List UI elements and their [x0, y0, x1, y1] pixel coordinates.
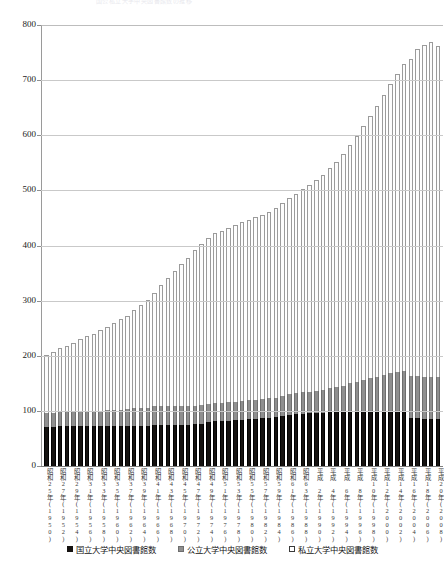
bar-segment-private — [375, 106, 379, 377]
bar-segment-private — [233, 225, 237, 401]
bar-segment-public — [119, 410, 123, 427]
bar-segment-national — [173, 425, 177, 466]
bar-segment-national — [429, 419, 433, 466]
bar-segment-national — [152, 425, 156, 466]
gridline — [41, 190, 443, 191]
bar-stack — [375, 106, 379, 466]
bar-segment-private — [85, 336, 89, 411]
x-axis-tick-label: 平成 8年(1996) — [354, 468, 363, 542]
legend-label-public: 公立大学中央図書館数 — [187, 543, 267, 555]
bar-segment-private — [247, 220, 251, 401]
bar-segment-private — [415, 49, 419, 375]
bar-segment-private — [348, 145, 352, 383]
bar-segment-private — [213, 233, 217, 403]
bar-segment-national — [328, 412, 332, 466]
bar-segment-private — [226, 228, 230, 402]
bar-segment-public — [341, 386, 345, 412]
bar-segment-national — [321, 413, 325, 466]
x-axis-tick-label: 平成20年(2008) — [435, 468, 444, 542]
bar-stack — [71, 343, 75, 466]
bar-segment-national — [240, 420, 244, 466]
x-axis-tick-label: 昭和31年(1956) — [84, 468, 93, 542]
bar-segment-public — [280, 396, 284, 416]
bar-segment-public — [328, 388, 332, 412]
bar-segment-private — [240, 222, 244, 401]
bar-segment-national — [247, 419, 251, 466]
bar-stack — [226, 228, 230, 466]
x-axis-tick-label: 昭和49年(1974) — [205, 468, 214, 542]
y-axis-labels: 0100200300400500600700800 — [0, 0, 36, 561]
bar-segment-national — [314, 413, 318, 466]
bar-segment-national — [159, 425, 163, 466]
bar-segment-public — [186, 406, 190, 424]
bar-segment-private — [98, 330, 102, 410]
bar-stack — [253, 217, 257, 466]
y-axis-tick-label: 400 — [6, 241, 36, 250]
bar-segment-national — [58, 426, 62, 466]
bar-segment-private — [71, 343, 75, 411]
bar-segment-private — [193, 250, 197, 405]
bar-segment-private — [125, 316, 129, 410]
bar-segment-public — [388, 373, 392, 412]
bar-segment-private — [119, 319, 123, 409]
bar-stack — [139, 305, 143, 466]
bar-segment-public — [368, 378, 372, 411]
bar-stack — [78, 339, 82, 466]
bar-segment-public — [71, 411, 75, 426]
bar-stack — [247, 220, 251, 466]
bar-segment-public — [179, 406, 183, 424]
bar-segment-national — [119, 426, 123, 466]
gridline — [41, 246, 443, 247]
x-axis-tick-label: 昭和33年(1958) — [97, 468, 106, 542]
bar-segment-national — [287, 415, 291, 466]
bar-segment-private — [409, 59, 413, 377]
bar-segment-private — [199, 244, 203, 405]
legend-item-private: 私立大学中央図書館数 — [289, 543, 378, 555]
bar-stack — [341, 154, 345, 466]
x-axis-tick-label: 平成 2年(1990) — [313, 468, 322, 542]
bar-stack — [213, 233, 217, 466]
x-axis-tick-label: 平成12年(2000) — [381, 468, 390, 542]
bar-stack — [395, 74, 399, 466]
bar-segment-national — [436, 419, 440, 466]
bar-stack — [98, 330, 102, 466]
x-axis-tick-label: 昭和29年(1954) — [70, 468, 79, 542]
bar-stack — [51, 352, 55, 466]
bar-stack — [388, 84, 392, 466]
bar-segment-private — [395, 74, 399, 372]
bar-segment-national — [307, 413, 311, 466]
bar-stack — [301, 189, 305, 466]
bar-segment-public — [375, 377, 379, 411]
bar-segment-private — [422, 45, 426, 377]
bar-segment-private — [334, 162, 338, 387]
y-axis-tick-label: 200 — [6, 351, 36, 360]
bar-segment-private — [220, 231, 224, 403]
bar-segment-private — [132, 310, 136, 408]
bar-stack — [422, 45, 426, 466]
x-axis-tick-label: 平成 4年(1992) — [327, 468, 336, 542]
bar-segment-national — [226, 421, 230, 466]
x-axis-tick-label: 昭和57年(1982) — [259, 468, 268, 542]
bar-stack — [260, 215, 264, 466]
chart-legend: 国立大学中央図書館数 公立大学中央図書館数 私立大学中央図書館数 — [0, 543, 444, 555]
bar-segment-public — [213, 403, 217, 422]
bar-segment-national — [409, 418, 413, 466]
legend-label-national: 国立大学中央図書館数 — [76, 543, 156, 555]
bar-segment-private — [105, 327, 109, 411]
bar-stack — [307, 185, 311, 466]
bar-stack — [368, 116, 372, 466]
legend-swatch-private-icon — [289, 546, 295, 552]
bar-segment-public — [173, 406, 177, 425]
bar-segment-private — [274, 208, 278, 398]
x-axis-tick-label: 昭和25年(1950) — [43, 468, 52, 542]
bar-segment-public — [65, 412, 69, 426]
bar-segment-public — [78, 411, 82, 426]
gridline — [41, 80, 443, 81]
bar-segment-national — [166, 425, 170, 466]
bar-segment-national — [274, 417, 278, 466]
x-axis-tick-label: 昭和61年(1986) — [286, 468, 295, 542]
bar-segment-national — [415, 418, 419, 466]
bar-segment-public — [274, 398, 278, 417]
bar-segment-national — [260, 418, 264, 466]
bar-segment-national — [146, 426, 150, 466]
